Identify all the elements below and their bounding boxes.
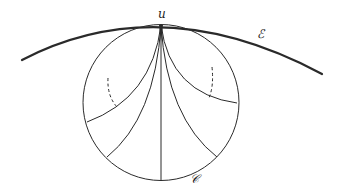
dashed-arc-left [108,78,117,107]
label-c: 𝒞 [190,172,202,186]
diagram-canvas: u ℰ 𝒞 [0,0,338,196]
diagram-svg: u ℰ 𝒞 [0,0,338,196]
geodesic-right-inner [161,25,217,157]
dashed-arc-right [209,67,213,98]
label-e: ℰ [257,27,266,41]
geodesic-left-outer [87,25,161,122]
label-u: u [158,7,166,21]
curve-e-arc [22,27,322,74]
